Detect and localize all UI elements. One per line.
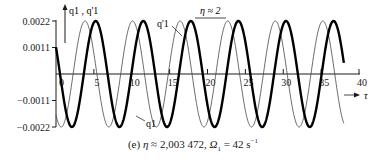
arrow-up-icon: [63, 4, 68, 10]
svg-text:q1: q1: [146, 118, 156, 129]
ylabel-text: q1 , q'1: [69, 5, 98, 16]
y-tick-label: 0.0022: [23, 16, 51, 27]
svg-text:q'1: q'1: [157, 18, 169, 29]
x-tick-label: 40: [357, 77, 367, 88]
arrow-right-icon: [354, 93, 360, 98]
svg-text:η ≈ 2: η ≈ 2: [200, 5, 220, 16]
figure-caption: (e) η ≈ 2,003 472, Ω1 = 42 s−1: [0, 137, 386, 153]
svg-text:τ: τ: [364, 90, 368, 101]
chart: 0.00220.0011−0.0011−0.0022 0510152025303…: [0, 0, 386, 160]
x-tick-label: 30: [281, 77, 291, 88]
series-label-q-prime-1: q'1: [157, 18, 182, 36]
y-tick-label: −0.0022: [17, 122, 50, 133]
eta-annotation: η ≈ 2: [195, 5, 226, 18]
series-label-q1: q1: [136, 116, 156, 129]
y-tick-label: −0.0011: [17, 95, 50, 106]
x-axis-label: τ: [344, 90, 368, 101]
y-tick-label: 0.0011: [23, 42, 50, 53]
y-ticks: 0.00220.0011−0.0011−0.0022: [17, 16, 56, 133]
